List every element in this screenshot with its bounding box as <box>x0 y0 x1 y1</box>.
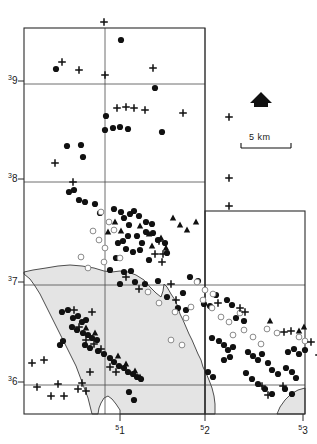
marker-filled-circle <box>302 347 308 353</box>
marker-plus <box>225 202 233 210</box>
y-axis-label-2: 37 <box>8 275 24 287</box>
marker-plus <box>40 356 48 364</box>
marker-filled-circle <box>83 317 89 323</box>
marker-open-circle <box>250 334 256 340</box>
marker-filled-circle <box>265 360 271 366</box>
marker-filled-circle <box>80 154 86 160</box>
svg-text:52: 52 <box>200 424 210 436</box>
marker-filled-circle <box>102 127 108 133</box>
marker-filled-circle <box>216 338 222 344</box>
marker-filled-circle <box>103 113 109 119</box>
marker-filled-circle <box>269 391 275 397</box>
marker-filled-triangle <box>170 215 176 221</box>
marker-filled-triangle <box>149 243 155 249</box>
marker-filled-circle <box>289 391 295 397</box>
marker-filled-circle <box>205 369 211 375</box>
marker-filled-circle <box>159 129 165 135</box>
marker-filled-triangle <box>296 328 302 334</box>
map-canvas: 5 km 39383736515253 <box>0 0 317 444</box>
marker-filled-circle <box>107 267 113 273</box>
marker-filled-circle <box>164 250 170 256</box>
svg-text:51: 51 <box>115 424 125 436</box>
marker-filled-triangle <box>118 228 124 234</box>
marker-filled-circle <box>121 215 127 221</box>
marker-open-circle <box>111 227 117 233</box>
marker-filled-circle <box>117 281 123 287</box>
y-axis-label-0: 39 <box>8 74 24 86</box>
marker-filled-circle <box>250 353 256 359</box>
marker-open-circle <box>218 314 224 320</box>
marker-filled-circle <box>134 233 140 239</box>
marker-filled-circle <box>64 143 70 149</box>
marker-plus <box>151 250 159 258</box>
marker-open-circle <box>101 259 107 265</box>
marker-filled-circle <box>120 238 126 244</box>
marker-filled-circle <box>249 376 255 382</box>
marker-plus <box>236 304 244 312</box>
marker-plus <box>122 103 130 111</box>
marker-plus <box>307 338 315 346</box>
marker-filled-circle <box>275 371 281 377</box>
marker-filled-triangle <box>105 229 111 235</box>
marker-open-circle <box>85 265 91 271</box>
marker-filled-circle <box>130 249 136 255</box>
marker-open-circle <box>183 315 189 321</box>
marker-plus <box>167 280 175 288</box>
marker-plus <box>54 380 62 388</box>
marker-plus <box>141 106 149 114</box>
marker-plus <box>130 104 138 112</box>
marker-filled-circle <box>162 240 168 246</box>
marker-filled-circle <box>164 294 170 300</box>
marker-filled-circle <box>53 66 59 72</box>
marker-plus <box>47 392 55 400</box>
svg-text:36: 36 <box>8 375 18 387</box>
marker-filled-circle <box>221 357 227 363</box>
map-figure: 5 km 39383736515253 <box>0 0 317 444</box>
marker-filled-circle <box>255 357 261 363</box>
y-axis-label-1: 38 <box>8 172 24 184</box>
marker-open-circle <box>241 327 247 333</box>
marker-filled-circle <box>243 370 249 376</box>
marker-open-circle <box>210 291 216 297</box>
marker-plus <box>225 174 233 182</box>
marker-filled-circle <box>118 209 124 215</box>
marker-filled-triangle <box>112 219 118 225</box>
marker-filled-circle <box>262 386 268 392</box>
marker-filled-circle <box>139 240 145 246</box>
marker-plus <box>101 71 109 79</box>
sea-shaded-area <box>24 265 305 414</box>
marker-filled-circle <box>146 257 152 263</box>
marker-plus <box>74 385 82 393</box>
marker-open-circle <box>188 304 194 310</box>
svg-text:37: 37 <box>8 275 18 287</box>
marker-open-circle <box>90 228 96 234</box>
marker-open-circle <box>302 338 308 344</box>
marker-filled-circle <box>293 375 299 381</box>
x-axis-label-2: 53 <box>298 414 308 436</box>
marker-filled-circle <box>59 309 65 315</box>
marker-plus <box>75 66 83 74</box>
marker-open-circle <box>226 319 232 325</box>
marker-filled-circle <box>71 187 77 193</box>
svg-text:53: 53 <box>298 424 308 436</box>
marker-filled-circle <box>230 344 236 350</box>
marker-filled-circle <box>289 369 295 375</box>
marker-filled-circle <box>131 208 137 214</box>
marker-open-circle <box>96 237 102 243</box>
marker-open-circle <box>202 287 208 293</box>
marker-filled-circle <box>283 365 289 371</box>
marker-filled-triangle <box>177 222 183 228</box>
marker-plus <box>28 359 36 367</box>
marker-plus <box>51 159 59 167</box>
marker-filled-circle <box>136 213 142 219</box>
marker-filled-triangle <box>301 324 307 330</box>
marker-filled-circle <box>75 313 81 319</box>
marker-filled-circle <box>82 199 88 205</box>
marker-filled-circle <box>94 337 100 343</box>
marker-plus <box>60 392 68 400</box>
marker-filled-circle <box>126 389 132 395</box>
marker-filled-circle <box>78 142 84 148</box>
marker-filled-circle <box>111 359 117 365</box>
marker-plus <box>315 351 317 359</box>
marker-filled-circle <box>87 345 93 351</box>
